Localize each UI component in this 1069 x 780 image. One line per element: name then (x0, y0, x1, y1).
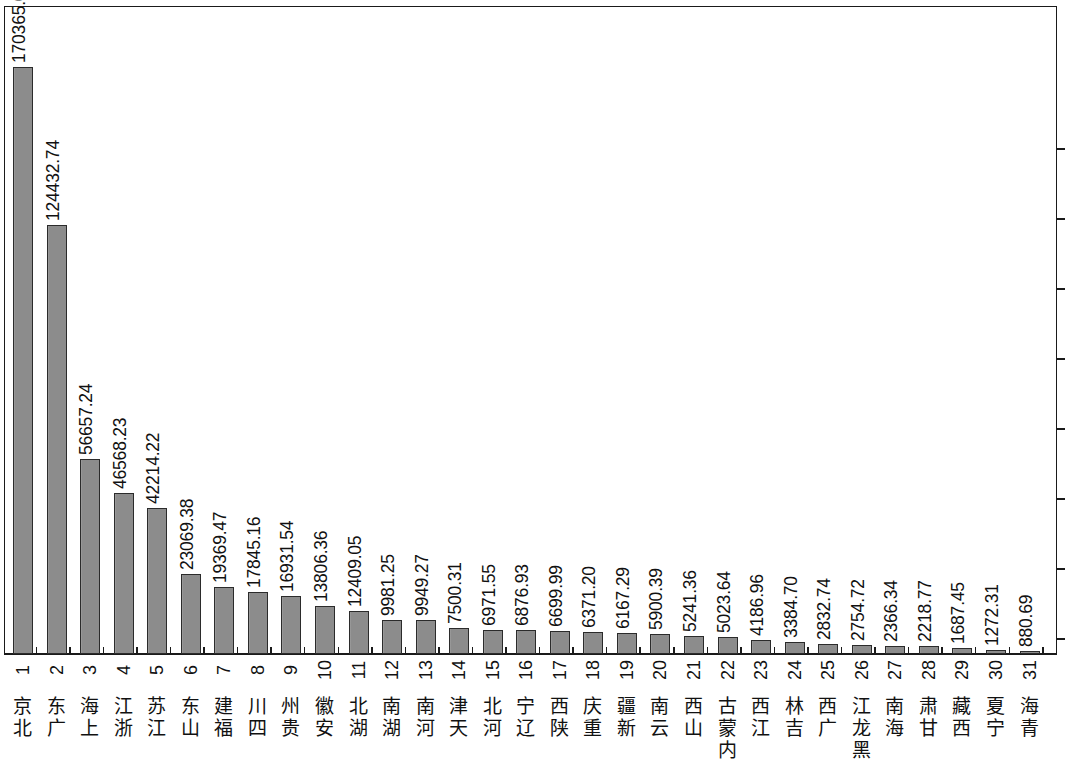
x-axis-label-group: 22古蒙内 (711, 660, 744, 780)
x-axis-index-label: 20 (650, 654, 670, 687)
x-axis-tick (237, 647, 239, 655)
x-axis-tick (103, 647, 105, 655)
x-axis-index-label: 11 (348, 654, 368, 687)
x-axis-category-label: 南湖 (375, 696, 408, 740)
x-axis-label-group: 7建福 (207, 660, 240, 780)
x-axis-label-group: 23西江 (744, 660, 777, 780)
bar[interactable] (718, 637, 738, 654)
x-axis-tick (539, 647, 541, 655)
bar[interactable] (181, 574, 201, 654)
x-axis-index-label: 15 (482, 654, 502, 687)
x-axis-category-label: 南云 (643, 696, 676, 740)
x-axis-tick (338, 647, 340, 655)
bar-value-label: 9981.25 (378, 554, 399, 616)
x-axis-tick (304, 647, 306, 655)
bar[interactable] (785, 642, 805, 654)
bar[interactable] (617, 633, 637, 654)
x-axis-tick (472, 647, 474, 655)
bar-value-label: 16931.54 (277, 520, 298, 591)
bar-value-label: 1687.45 (948, 582, 969, 644)
bar[interactable] (516, 630, 536, 654)
x-axis-index-label: 24 (784, 654, 804, 687)
bar[interactable] (114, 493, 134, 654)
x-axis-tick (69, 647, 71, 655)
x-axis-category-label: 南海 (878, 696, 911, 740)
x-axis-category-label: 肃甘 (912, 696, 945, 740)
x-axis-label-group: 14津天 (442, 660, 475, 780)
x-axis-category-label: 东山 (174, 696, 207, 740)
bar[interactable] (315, 606, 335, 654)
x-axis-category-label: 东广 (40, 696, 73, 740)
bar[interactable] (449, 628, 469, 654)
x-axis-label-group: 3海上 (73, 660, 106, 780)
x-axis-tick (874, 647, 876, 655)
bar[interactable] (248, 592, 268, 654)
bar[interactable] (281, 596, 301, 654)
x-axis-category-label: 海青 (1013, 696, 1046, 740)
x-axis-category-label: 西广 (811, 696, 844, 740)
bar-value-label: 5241.36 (680, 570, 701, 632)
bar-value-label: 46568.23 (110, 418, 131, 489)
x-axis-label-group: 9州贵 (274, 660, 307, 780)
x-axis-index-label: 17 (549, 654, 569, 687)
x-axis-index-label: 21 (684, 654, 704, 687)
x-axis-label-group: 10徽安 (308, 660, 341, 780)
x-axis-index-label: 28 (918, 654, 938, 687)
x-axis-category-label: 林吉 (778, 696, 811, 740)
x-axis-category-label: 海上 (73, 696, 106, 740)
x-axis-index-label: 2 (46, 654, 66, 687)
bar-value-label: 2754.72 (848, 579, 869, 641)
bar[interactable] (650, 634, 670, 654)
bar-value-label: 2832.74 (814, 578, 835, 640)
x-axis-index-label: 5 (147, 654, 167, 687)
x-axis-tick (673, 647, 675, 655)
x-axis-label-group: 26江龙黑 (845, 660, 878, 780)
bar[interactable] (47, 225, 67, 654)
bar[interactable] (214, 587, 234, 654)
x-axis-label-group: 21西山 (677, 660, 710, 780)
x-axis-index-label: 23 (751, 654, 771, 687)
x-axis-tick (170, 647, 172, 655)
bar[interactable] (80, 459, 100, 654)
bar-value-label: 880.69 (1016, 595, 1037, 647)
x-axis-index-label: 30 (985, 654, 1005, 687)
bar[interactable] (416, 620, 436, 654)
x-axis-label-group: 17西陕 (543, 660, 576, 780)
bar-value-label: 42214.22 (143, 433, 164, 504)
bar[interactable] (684, 636, 704, 654)
x-axis-index-label: 10 (314, 654, 334, 687)
x-axis-label-group: 31海青 (1013, 660, 1046, 780)
bar[interactable] (751, 640, 771, 654)
x-axis-tick (438, 647, 440, 655)
x-axis-category-label: 苏江 (140, 696, 173, 740)
bar[interactable] (483, 630, 503, 654)
bar[interactable] (13, 67, 33, 654)
bar-value-label: 6371.20 (579, 566, 600, 628)
bar-value-label: 56657.24 (76, 383, 97, 454)
x-axis-tick (774, 647, 776, 655)
x-axis-category-label: 徽安 (308, 696, 341, 740)
bar[interactable] (349, 611, 369, 654)
y-axis-tick-right (1056, 288, 1065, 290)
x-axis-category-label: 西陕 (543, 696, 576, 740)
bar[interactable] (147, 508, 167, 654)
x-axis-tick (203, 647, 205, 655)
bar[interactable] (583, 632, 603, 654)
bar[interactable] (382, 620, 402, 654)
x-axis-label-group: 20南云 (643, 660, 676, 780)
bar[interactable] (550, 631, 570, 654)
bar-value-label: 3384.70 (781, 576, 802, 638)
x-axis-label-group: 19疆新 (610, 660, 643, 780)
x-axis-category-label: 南河 (409, 696, 442, 740)
x-axis-index-label: 4 (113, 654, 133, 687)
x-axis-index-label: 27 (885, 654, 905, 687)
bar-value-label: 4186.96 (747, 574, 768, 636)
x-axis-label-group: 18庆重 (576, 660, 609, 780)
x-axis-index-label: 3 (80, 654, 100, 687)
x-axis-category-label: 川四 (241, 696, 274, 740)
x-axis-index-label: 29 (952, 654, 972, 687)
x-axis-index-label: 9 (281, 654, 301, 687)
x-axis-index-label: 14 (449, 654, 469, 687)
x-axis-label-group: 8川四 (241, 660, 274, 780)
x-axis-category-label: 西山 (677, 696, 710, 740)
